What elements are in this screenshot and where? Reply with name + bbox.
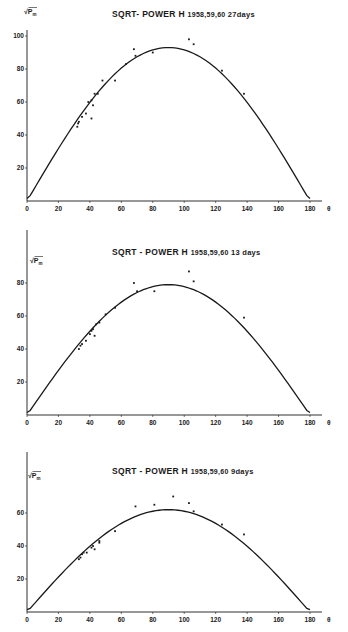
x-tick-label: 80 [149, 205, 157, 212]
x-tick-label: 180 [305, 616, 316, 623]
chart-panel-3: 020406080100120140160180θ204060√PmSQRT -… [17, 452, 331, 623]
x-tick-label: 80 [149, 419, 157, 426]
data-point [193, 510, 195, 512]
data-point [152, 52, 154, 54]
y-tick-label: 20 [17, 164, 25, 171]
data-point [78, 348, 80, 350]
data-point [153, 504, 155, 506]
fit-curve [27, 285, 310, 413]
chart-panel-2: 020406080100120140160180θ20406080√PmSQRT… [17, 230, 331, 426]
x-tick-label: 140 [242, 205, 253, 212]
x-tick-label: 60 [118, 616, 126, 623]
data-point [114, 530, 116, 532]
data-point [125, 63, 127, 65]
x-tick-label: 120 [210, 205, 221, 212]
data-point [105, 313, 107, 315]
data-point [98, 322, 100, 324]
x-tick-label: 140 [242, 419, 253, 426]
x-tick-label: 40 [86, 419, 94, 426]
chart-title: SQRT - POWER H 1958,59,60 9days [112, 466, 254, 476]
data-point [85, 340, 87, 342]
fit-curve [27, 48, 310, 199]
x-tick-label: 20 [55, 419, 63, 426]
y-tick-label: 100 [13, 32, 24, 39]
data-point [188, 38, 190, 40]
x-axis-symbol: θ [327, 616, 331, 623]
y-tick-label: 60 [17, 509, 25, 516]
data-point [221, 70, 223, 72]
data-point [114, 307, 116, 309]
x-tick-label: 120 [210, 419, 221, 426]
data-point [81, 343, 83, 345]
data-point [91, 118, 93, 120]
x-tick-label: 80 [149, 616, 157, 623]
x-tick-label: 160 [273, 616, 284, 623]
data-point [76, 126, 78, 128]
x-tick-label: 180 [305, 419, 316, 426]
data-point [85, 113, 87, 115]
data-point [172, 496, 174, 498]
x-tick-label: 180 [305, 205, 316, 212]
x-tick-label: 160 [273, 419, 284, 426]
data-point [94, 548, 96, 550]
data-point [91, 99, 93, 101]
data-point [87, 101, 89, 103]
data-point [80, 345, 82, 347]
data-point [98, 540, 100, 542]
chart-canvas: 020406080100120140160180θ20406080100√PmS… [0, 0, 348, 632]
data-point [86, 552, 88, 554]
data-point [92, 545, 94, 547]
data-point [153, 290, 155, 292]
data-point [81, 553, 83, 555]
y-tick-label: 40 [17, 345, 25, 352]
x-tick-label: 40 [86, 205, 94, 212]
data-point [92, 328, 94, 330]
y-tick-label: 20 [17, 378, 25, 385]
data-point [91, 330, 93, 332]
data-point [114, 80, 116, 82]
y-tick-label: 60 [17, 98, 25, 105]
x-tick-label: 120 [210, 616, 221, 623]
y-tick-label: 40 [17, 131, 25, 138]
data-point [133, 282, 135, 284]
x-tick-label: 0 [25, 616, 29, 623]
data-point [243, 93, 245, 95]
data-point [188, 271, 190, 273]
data-point [188, 502, 190, 504]
x-tick-label: 20 [55, 616, 63, 623]
x-tick-label: 100 [179, 205, 190, 212]
y-tick-label: 20 [17, 575, 25, 582]
data-point [91, 547, 93, 549]
x-tick-label: 60 [118, 419, 126, 426]
x-tick-label: 140 [242, 616, 253, 623]
data-point [77, 123, 79, 125]
data-point [97, 93, 99, 95]
chart-title: SQRT - POWER H 1958,59,60 13 days [112, 247, 261, 257]
y-tick-label: 80 [17, 65, 25, 72]
x-tick-label: 20 [55, 205, 63, 212]
data-point [243, 534, 245, 536]
data-point [133, 48, 135, 50]
fit-curve [27, 510, 310, 610]
y-axis-label: √Pm [24, 8, 37, 17]
x-axis-symbol: θ [327, 419, 331, 426]
data-point [98, 542, 100, 544]
data-point [80, 557, 82, 559]
y-tick-label: 80 [17, 279, 25, 286]
x-tick-label: 100 [179, 616, 190, 623]
data-point [221, 524, 223, 526]
data-point [94, 335, 96, 337]
chart-title: SQRT- POWER H 1958,59,60 27days [112, 9, 255, 19]
x-axis-symbol: θ [327, 205, 331, 212]
data-point [135, 506, 137, 508]
data-point [95, 323, 97, 325]
x-tick-label: 0 [25, 205, 29, 212]
y-axis-label: √Pm [28, 472, 41, 481]
data-point [81, 116, 83, 118]
data-point [193, 43, 195, 45]
data-point [78, 121, 80, 123]
data-point [193, 280, 195, 282]
data-point [135, 55, 137, 57]
x-tick-label: 160 [273, 205, 284, 212]
data-point [78, 558, 80, 560]
